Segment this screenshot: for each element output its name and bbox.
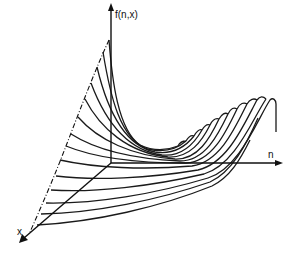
vertical-axis-arrow-icon — [108, 3, 114, 11]
curve-family — [37, 40, 276, 225]
curve-11 — [51, 99, 266, 191]
curve-1 — [109, 40, 178, 150]
n-axis-label: n — [268, 150, 274, 160]
x-axis-label: x — [17, 227, 22, 237]
surface-diagram — [0, 0, 294, 259]
vertical-axis-label: f(n,x) — [115, 10, 138, 20]
n-axis-arrow-icon — [275, 160, 283, 166]
axes — [19, 3, 283, 243]
curve-8 — [66, 109, 237, 163]
